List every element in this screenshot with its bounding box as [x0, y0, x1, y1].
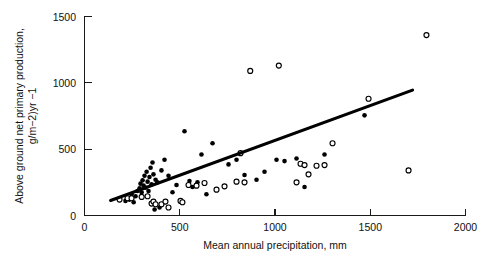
data-point-filled: [302, 185, 307, 190]
regression-trendline: [111, 90, 413, 200]
data-point-filled: [174, 183, 179, 188]
data-point-filled: [226, 162, 231, 167]
data-point-open: [248, 68, 253, 73]
x-tick-labels: 0 500 1000 1500 2000: [82, 221, 478, 233]
x-axis-title: Mean annual precipitation, mm: [203, 239, 347, 251]
data-point-filled: [234, 157, 239, 162]
data-point-open: [424, 33, 429, 38]
data-point-open: [234, 179, 239, 184]
data-point-filled: [151, 172, 156, 177]
data-point-filled: [140, 178, 145, 183]
data-point-open: [242, 180, 247, 185]
series-open-circles: [117, 33, 429, 210]
data-point-open: [222, 184, 227, 189]
data-point-filled: [148, 165, 153, 170]
data-point-filled: [150, 160, 155, 165]
y-ticklabel-0: 0: [70, 210, 76, 222]
data-point-filled: [144, 169, 149, 174]
y-ticklabel-1000: 1000: [53, 77, 77, 89]
data-point-open: [180, 200, 185, 205]
trendline-layer: [111, 90, 413, 200]
data-point-open: [166, 205, 171, 210]
x-ticklabel-0: 0: [82, 221, 88, 233]
data-point-open: [129, 196, 134, 201]
x-ticklabel-1000: 1000: [263, 221, 287, 233]
data-point-open: [163, 199, 168, 204]
data-point-filled: [162, 157, 167, 162]
data-point-open: [306, 172, 311, 177]
x-ticklabel-2000: 2000: [454, 221, 478, 233]
data-point-filled: [210, 141, 215, 146]
data-point-open: [322, 163, 327, 168]
data-point-filled: [145, 179, 150, 184]
y-ticklabel-1500: 1500: [53, 11, 77, 23]
data-point-open: [145, 194, 150, 199]
data-point-open: [139, 194, 144, 199]
y-axis-title-line2: g/m−2)yr −1: [26, 88, 38, 145]
data-point-filled: [146, 189, 151, 194]
data-point-open: [314, 163, 319, 168]
data-point-filled: [204, 192, 209, 197]
y-axis-title-line1: Above ground net primary production,: [13, 28, 25, 204]
data-point-filled: [274, 157, 279, 162]
data-point-filled: [159, 168, 164, 173]
data-point-filled: [147, 175, 152, 180]
x-ticklabel-1500: 1500: [359, 221, 383, 233]
data-points-layer: [117, 33, 429, 212]
data-point-open: [294, 180, 299, 185]
data-point-open: [406, 168, 411, 173]
data-point-filled: [199, 152, 204, 157]
data-point-filled: [142, 173, 147, 178]
data-point-filled: [152, 207, 157, 212]
plot-svg: 1500 1000 500 0 0 500 1000 1500 2000 Mea…: [0, 0, 498, 260]
data-point-filled: [282, 159, 287, 164]
data-point-filled: [254, 177, 259, 182]
scatter-plot-figure: 1500 1000 500 0 0 500 1000 1500 2000 Mea…: [0, 0, 498, 260]
data-point-open: [330, 141, 335, 146]
x-ticklabel-500: 500: [171, 221, 189, 233]
series-filled-circles: [123, 113, 367, 212]
y-ticklabel-500: 500: [58, 143, 76, 155]
data-point-open: [214, 187, 219, 192]
data-point-open: [276, 63, 281, 68]
data-point-open: [153, 202, 158, 207]
data-point-open: [302, 163, 307, 168]
data-point-open: [194, 183, 199, 188]
data-point-open: [202, 181, 207, 186]
data-point-filled: [242, 173, 247, 178]
data-point-filled: [322, 152, 327, 157]
data-point-filled: [362, 113, 367, 118]
data-point-filled: [262, 169, 267, 174]
data-point-filled: [182, 129, 187, 134]
y-tick-labels: 1500 1000 500 0: [53, 11, 77, 222]
data-point-open: [366, 96, 371, 101]
data-point-filled: [294, 156, 299, 161]
data-point-open: [186, 182, 191, 187]
data-point-filled: [170, 190, 175, 195]
